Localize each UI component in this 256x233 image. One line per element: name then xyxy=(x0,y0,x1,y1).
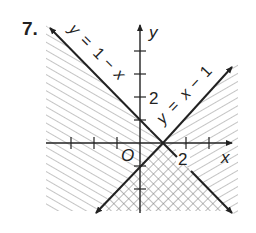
x-axis-label: x xyxy=(220,148,230,167)
x-tick-label-2: 2 xyxy=(178,150,187,169)
y-tick-label-2: 2 xyxy=(149,89,158,108)
origin-label: O xyxy=(121,146,134,165)
y-axis-label: y xyxy=(148,23,159,42)
graph: y x O 2 2 y = 1 − x y = x − 1 xyxy=(0,0,256,233)
